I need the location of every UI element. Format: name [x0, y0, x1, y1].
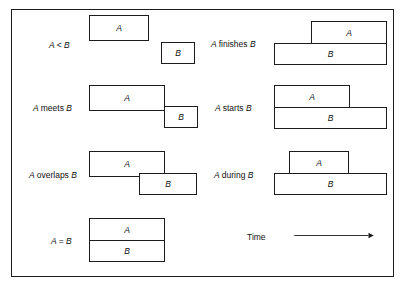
- relation-label-during-a: A: [214, 170, 219, 180]
- relation-label-meets: A meets B: [33, 104, 72, 113]
- relation-label-finishes-b: B: [250, 39, 256, 49]
- relation-label-starts-a: A: [215, 103, 220, 113]
- relation-label-overlaps-word: overlaps: [37, 170, 69, 180]
- interval-box-label: A: [116, 23, 122, 33]
- interval-box-label: B: [328, 49, 334, 59]
- interval-box-meets-b: B: [164, 106, 198, 128]
- relation-label-equals-b: B: [66, 236, 72, 246]
- figure-frame: A < B A B A meets B A B A overlaps B A: [11, 9, 394, 277]
- interval-box-equals-a: A: [89, 218, 165, 240]
- relation-label-before: A < B: [49, 41, 70, 50]
- relation-label-starts-word: starts: [223, 103, 244, 113]
- relation-label-overlaps: A overlaps B: [29, 171, 77, 180]
- interval-box-starts-b: B: [274, 107, 387, 129]
- interval-box-finishes-b: B: [274, 43, 387, 65]
- relation-label-starts: A starts B: [215, 104, 252, 113]
- interval-box-before-b: B: [161, 42, 195, 64]
- interval-box-label: A: [124, 93, 130, 103]
- interval-box-label: B: [175, 48, 181, 58]
- relation-label-finishes: A finishes B: [211, 40, 256, 49]
- relation-label-meets-word: meets: [41, 103, 64, 113]
- relation-label-equals-a: A: [51, 236, 56, 246]
- relation-label-finishes-a: A: [211, 39, 216, 49]
- interval-box-label: A: [124, 159, 130, 169]
- interval-box-starts-a: A: [274, 85, 350, 107]
- interval-box-finishes-a: A: [311, 21, 387, 43]
- interval-box-label: A: [309, 92, 315, 102]
- interval-box-overlaps-b: B: [139, 173, 197, 195]
- relation-label-before-a: A: [49, 40, 54, 50]
- interval-box-label: B: [328, 113, 334, 123]
- interval-box-label: B: [178, 112, 184, 122]
- relation-label-during: A during B: [214, 171, 253, 180]
- relation-label-overlaps-b: B: [71, 170, 77, 180]
- relation-label-finishes-word: finishes: [219, 39, 248, 49]
- relation-label-equals-op: =: [59, 236, 64, 246]
- relation-label-during-word: during: [222, 170, 246, 180]
- time-arrow-icon: [281, 231, 387, 240]
- interval-box-label: B: [165, 179, 171, 189]
- relation-label-before-op: <: [57, 40, 62, 50]
- interval-box-label: A: [346, 28, 352, 38]
- relation-label-during-b: B: [248, 170, 254, 180]
- relation-label-overlaps-a: A: [29, 170, 34, 180]
- relation-label-equals: A = B: [51, 237, 72, 246]
- relation-label-starts-b: B: [246, 103, 252, 113]
- interval-box-during-a: A: [289, 151, 349, 173]
- interval-box-label: A: [316, 158, 322, 168]
- interval-box-label: B: [328, 179, 334, 189]
- interval-relations-figure: A < B A B A meets B A B A overlaps B A: [0, 0, 406, 287]
- interval-box-label: A: [124, 225, 130, 235]
- interval-box-equals-b: B: [89, 240, 165, 262]
- interval-box-meets-a: A: [89, 85, 165, 111]
- interval-box-before-a: A: [89, 15, 149, 41]
- relation-label-meets-b: B: [66, 103, 72, 113]
- interval-box-label: B: [124, 246, 130, 256]
- time-axis-label: Time: [247, 233, 266, 242]
- relation-label-meets-a: A: [33, 103, 38, 113]
- interval-box-during-b: B: [274, 173, 387, 195]
- relation-label-before-b: B: [64, 40, 70, 50]
